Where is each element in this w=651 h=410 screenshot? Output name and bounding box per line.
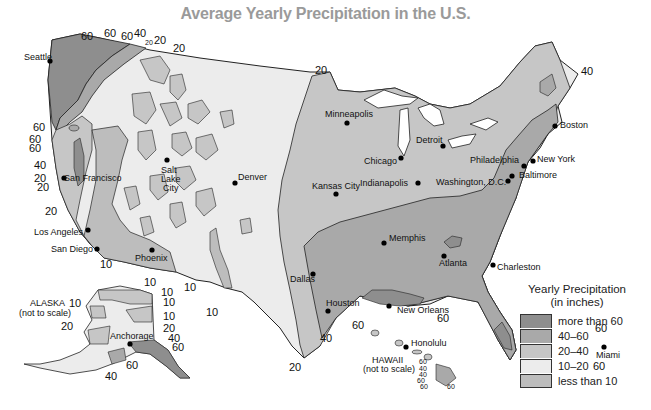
isohyet-label: 20	[45, 205, 57, 217]
alaska-scale-note: (not to scale)	[19, 308, 71, 318]
zone-60-shasta	[69, 125, 79, 131]
isohyet-label: 60	[420, 383, 428, 390]
isohyet-label: 60	[81, 30, 93, 42]
isohyet-label: 20	[154, 34, 166, 46]
city-marker	[94, 246, 99, 251]
legend-swatch	[520, 344, 552, 358]
city-label: Detroit	[416, 135, 443, 145]
city-label: Charleston	[497, 262, 541, 272]
city-marker	[521, 163, 526, 168]
city-label: Washington, D.C.	[436, 177, 506, 187]
legend: Yearly Precipitation (in inches) more th…	[520, 283, 648, 388]
legend-label: 20–40	[558, 345, 589, 357]
city-marker	[552, 123, 557, 128]
city-label: Chicago	[364, 156, 397, 166]
isohyet-label: 60	[437, 312, 449, 324]
city-label: Philadelphia	[470, 155, 519, 165]
isohyet-label: 10	[163, 310, 175, 322]
legend-item: less than 10	[520, 373, 648, 388]
city-marker	[344, 120, 349, 125]
legend-item: 10–20	[520, 358, 648, 373]
isohyet-label: 60	[33, 121, 45, 133]
legend-title-units: (in inches)	[506, 296, 648, 309]
city-marker	[386, 303, 391, 308]
city-marker	[85, 227, 90, 232]
isohyet-label: 20	[37, 181, 49, 193]
city-label: San Francisco	[64, 173, 122, 183]
legend-title-line1: Yearly Precipitation	[506, 283, 648, 296]
legend-swatch	[520, 374, 552, 388]
legend-item: more than 60	[520, 313, 648, 328]
city-label: Seattle	[24, 52, 52, 62]
isohyet-label: 10	[144, 276, 156, 288]
legend-swatch	[520, 314, 552, 328]
isohyet-label: 10	[163, 296, 175, 308]
city-label: Minneapolis	[325, 109, 374, 119]
city-label: Indianapolis	[360, 178, 409, 188]
isohyet-label: 20	[289, 361, 301, 373]
isohyet-label: 20	[145, 39, 153, 46]
legend-swatch	[520, 329, 552, 343]
isohyet-label: 40	[134, 27, 146, 39]
isohyet-label: 60	[104, 27, 116, 39]
isohyet-label: 40	[105, 370, 117, 382]
legend-title: Yearly Precipitation (in inches)	[506, 283, 648, 309]
city-label: Dallas	[290, 274, 316, 284]
isohyet-label: 60	[447, 383, 455, 390]
city-marker	[232, 180, 237, 185]
isohyet-label: 20	[173, 42, 185, 54]
legend-item: 20–40	[520, 343, 648, 358]
city-label: City	[163, 183, 179, 193]
city-marker	[490, 262, 495, 267]
legend-items: more than 6040–6020–4010–20less than 10	[520, 313, 648, 388]
city-label: Atlanta	[439, 258, 467, 268]
city-marker	[509, 173, 514, 178]
city-label: San Diego	[51, 244, 93, 254]
isohyet-label: 10	[100, 258, 112, 270]
isohyet-label: 10	[184, 281, 196, 293]
city-marker	[164, 157, 169, 162]
legend-item: 40–60	[520, 328, 648, 343]
city-label: Houston	[326, 298, 360, 308]
city-label: Anchorage	[110, 331, 154, 341]
city-label: Phoenix	[135, 253, 168, 263]
city-label: Honolulu	[411, 338, 447, 348]
isohyet-label: 40	[581, 65, 593, 77]
isohyet-label: 60	[121, 30, 133, 42]
alaska-label: ALASKA	[30, 298, 65, 308]
isohyet-label: 20	[61, 320, 73, 332]
city-label: Boston	[560, 120, 588, 130]
legend-label: more than 60	[558, 315, 623, 327]
city-marker	[127, 341, 132, 346]
city-label: Kansas City	[312, 181, 361, 191]
legend-swatch	[520, 359, 552, 373]
hawaii-scale-note: (not to scale)	[363, 364, 415, 374]
city-label: Los Angeles	[34, 227, 84, 237]
city-marker	[381, 240, 386, 245]
isohyet-label: 40	[320, 332, 332, 344]
city-label: Baltimore	[519, 170, 557, 180]
city-marker	[530, 158, 535, 163]
isohyet-label: 60	[29, 142, 41, 154]
city-marker	[398, 155, 403, 160]
isohyet-label: 10	[206, 306, 218, 318]
city-marker	[149, 247, 154, 252]
isohyet-label: 60	[419, 358, 427, 365]
isohyet-label: 40	[34, 159, 46, 171]
city-marker	[325, 308, 330, 313]
legend-label: 40–60	[558, 330, 589, 342]
isohyet-label: 60	[172, 341, 184, 353]
isohyet-label: 20	[315, 64, 327, 76]
isohyet-label: 60	[352, 319, 364, 331]
city-label: Denver	[238, 172, 267, 182]
legend-label: 10–20	[558, 360, 589, 372]
city-marker	[333, 191, 338, 196]
isohyet-label: 60	[126, 359, 138, 371]
legend-label: less than 10	[558, 375, 617, 387]
city-label: Memphis	[389, 233, 426, 243]
city-marker	[415, 180, 420, 185]
city-marker	[403, 344, 408, 349]
city-label: New York	[537, 154, 576, 164]
